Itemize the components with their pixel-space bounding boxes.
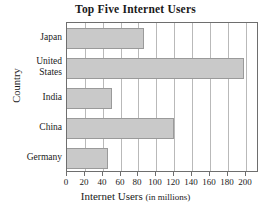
bar-band (67, 28, 257, 49)
y-tick-label-united-states: UnitedStates (8, 56, 66, 77)
chart-title: Top Five Internet Users (0, 2, 271, 16)
bar-band (67, 148, 257, 169)
bar-china (67, 118, 174, 139)
x-tick-mark (84, 172, 85, 176)
bar-band (67, 118, 257, 139)
y-tick-label-india: India (8, 92, 66, 103)
x-tick-mark (137, 172, 138, 176)
bar-united-states (67, 58, 244, 79)
y-tick-label-japan: Japan (8, 32, 66, 43)
bar-india (67, 88, 112, 109)
bar-japan (67, 28, 144, 49)
x-tick-mark (173, 172, 174, 176)
x-axis-title: Internet Users (in millions) (0, 190, 271, 202)
x-tick-mark (227, 172, 228, 176)
bar-band (67, 58, 257, 79)
bar-band (67, 88, 257, 109)
chart-figure: Top Five Internet Users Country JapanUni… (0, 0, 271, 212)
x-tick-mark (155, 172, 156, 176)
x-tick-mark (209, 172, 210, 176)
y-tick-label-china: China (8, 122, 66, 133)
x-tick-mark (102, 172, 103, 176)
x-axis-title-units: (in millions) (146, 192, 191, 202)
plot-area (66, 22, 258, 172)
y-tick-label-germany: Germany (8, 152, 66, 163)
x-tick-mark (66, 172, 67, 176)
x-tick-label-200: 200 (232, 177, 258, 187)
bar-germany (67, 148, 108, 169)
x-tick-mark (191, 172, 192, 176)
x-tick-mark (120, 172, 121, 176)
x-tick-mark (245, 172, 246, 176)
x-axis-title-main: Internet Users (81, 190, 143, 202)
